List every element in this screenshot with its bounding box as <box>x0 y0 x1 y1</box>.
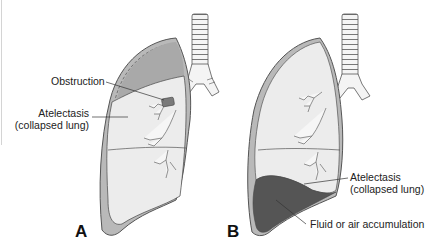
fluid-label: Fluid or air accumulation <box>310 218 424 230</box>
panel-a-illustration <box>92 14 219 235</box>
atelectasis-b-label-line2: (collapsed lung) <box>350 183 424 195</box>
atelectasis-a-label-line1: Atelectasis <box>9 107 89 119</box>
collapsed-lung-b <box>255 42 340 193</box>
panel-letter-b: B <box>227 222 239 242</box>
atelectasis-a-label-line2: (collapsed lung) <box>9 119 89 131</box>
panel-letter-a: A <box>75 222 87 242</box>
trachea-b <box>334 14 370 100</box>
obstruction-label: Obstruction <box>51 75 105 87</box>
obstruction-plug <box>161 97 174 107</box>
collapsed-lung-a <box>107 76 186 224</box>
atelectasis-b-label-line1: Atelectasis <box>350 171 401 183</box>
atelectasis-figure: Obstruction Atelectasis (collapsed lung)… <box>0 0 440 249</box>
panel-b-illustration <box>248 14 370 236</box>
